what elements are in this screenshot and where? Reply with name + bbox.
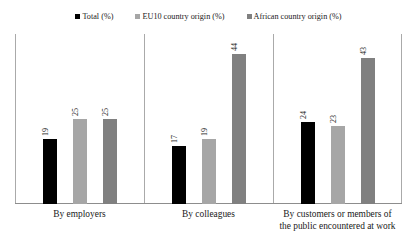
bar-groups: 192525171944242343 bbox=[15, 34, 402, 204]
bar-slot-eu10-2: 19 bbox=[194, 34, 224, 204]
bar-eu10-2[interactable]: 19 bbox=[202, 139, 216, 204]
legend-item-eu10: EU10 country origin (%) bbox=[135, 13, 224, 21]
bar-value-label-total-2: 17 bbox=[171, 135, 179, 143]
bar-slot-african-2: 44 bbox=[224, 34, 254, 204]
bar-value-label-eu10-3: 23 bbox=[330, 115, 338, 123]
legend-item-african: African country origin (%) bbox=[247, 13, 342, 21]
bar-slot-eu10-1: 25 bbox=[65, 34, 95, 204]
bar-value-label-eu10-1: 25 bbox=[72, 108, 80, 116]
bar-total-3[interactable]: 24 bbox=[301, 122, 315, 204]
legend-swatch-eu10 bbox=[135, 14, 140, 19]
category-label-colleagues: By colleagues bbox=[144, 209, 273, 233]
bar-value-label-total-3: 24 bbox=[300, 111, 308, 119]
bar-slot-total-1: 19 bbox=[35, 34, 65, 204]
bar-eu10-1[interactable]: 25 bbox=[73, 119, 87, 204]
category-axis-labels: By employers By colleagues By customers … bbox=[15, 209, 402, 233]
legend-label-african: African country origin (%) bbox=[254, 13, 342, 21]
legend-item-total: Total (%) bbox=[75, 13, 113, 21]
legend-label-eu10: EU10 country origin (%) bbox=[142, 13, 224, 21]
bar-slot-african-1: 25 bbox=[95, 34, 125, 204]
bar-value-label-african-2: 44 bbox=[231, 43, 239, 51]
bar-group-1: 192525 bbox=[15, 34, 144, 204]
legend-swatch-african bbox=[247, 14, 252, 19]
bar-total-1[interactable]: 19 bbox=[43, 139, 57, 204]
legend-swatch-total bbox=[75, 14, 80, 19]
bar-african-2[interactable]: 44 bbox=[232, 54, 246, 204]
bar-total-2[interactable]: 17 bbox=[172, 146, 186, 204]
bar-group-3: 242343 bbox=[273, 34, 402, 204]
legend-label-total: Total (%) bbox=[82, 13, 113, 21]
bar-group-2: 171944 bbox=[144, 34, 273, 204]
category-label-employers: By employers bbox=[15, 209, 144, 233]
chart-legend: Total (%) EU10 country origin (%) Africa… bbox=[0, 10, 417, 24]
category-label-customers: By customers or members of the public en… bbox=[273, 209, 402, 233]
bar-eu10-3[interactable]: 23 bbox=[331, 126, 345, 204]
bar-slot-eu10-3: 23 bbox=[323, 34, 353, 204]
bar-value-label-eu10-2: 19 bbox=[201, 128, 209, 136]
bar-african-1[interactable]: 25 bbox=[103, 119, 117, 204]
bar-slot-total-3: 24 bbox=[293, 34, 323, 204]
bar-value-label-african-3: 43 bbox=[360, 47, 368, 55]
bar-slot-african-3: 43 bbox=[353, 34, 383, 204]
bar-slot-total-2: 17 bbox=[164, 34, 194, 204]
bar-value-label-total-1: 19 bbox=[42, 128, 50, 136]
bar-african-3[interactable]: 43 bbox=[361, 58, 375, 204]
bar-value-label-african-1: 25 bbox=[102, 108, 110, 116]
